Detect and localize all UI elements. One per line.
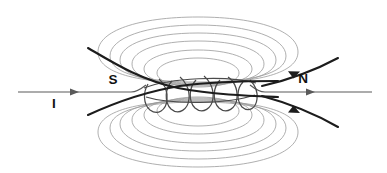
wire-lead-left	[18, 85, 146, 92]
north-pole-label: N	[298, 71, 308, 86]
flux-curve-lower-right	[262, 96, 338, 127]
flux-arrowhead-lower-right	[288, 106, 300, 114]
current-arrowhead-left	[70, 88, 79, 95]
current-label: I	[52, 96, 56, 111]
lower-field-lines-group	[98, 97, 298, 167]
upper-field-lines-group	[98, 17, 298, 87]
current-arrowhead-right	[306, 88, 315, 95]
bold-flux-curves-group	[88, 48, 338, 127]
south-pole-label: S	[108, 72, 117, 87]
solenoid-field-illustration: S N I	[0, 0, 387, 173]
solenoid-diagram: S N I	[0, 0, 387, 173]
